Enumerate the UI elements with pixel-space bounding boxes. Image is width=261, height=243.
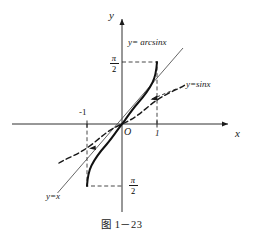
ytick-label-half-pi: π 2 [107, 54, 121, 74]
figure-caption: 图 1－23 [101, 216, 142, 231]
half-pi-numerator: π [107, 54, 121, 63]
xtick-label-neg-one: -1 [79, 108, 87, 117]
guide-dash-lower [87, 124, 122, 186]
y-axis-label: y [109, 10, 114, 21]
neg-half-pi-denominator: 2 [126, 187, 140, 196]
guide-dash-upper [122, 62, 157, 124]
label-sin-curve: y=sinx [186, 80, 211, 89]
label-arcsin-curve: y= arcsinx [128, 38, 166, 47]
x-axis-label: x [235, 128, 240, 139]
origin-label: O [124, 127, 131, 137]
ytick-label-neg-half-pi: π 2 [126, 176, 140, 196]
half-pi-denominator: 2 [107, 65, 121, 74]
neg-half-pi-numerator: π [126, 176, 140, 185]
label-identity-curve: y=x [46, 192, 60, 201]
xtick-label-one: 1 [155, 129, 160, 138]
figure-container: y x O 1 -1 π 2 − π 2 y= arcsinx y=sinx y… [0, 0, 261, 243]
pointer-sin-right-head [151, 96, 158, 101]
